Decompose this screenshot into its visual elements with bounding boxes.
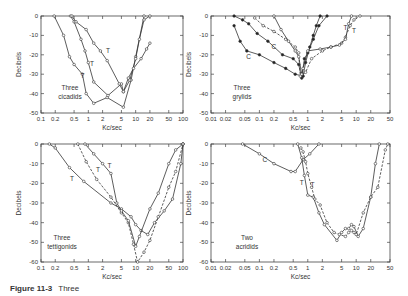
data-point [318, 143, 321, 146]
data-point [253, 17, 256, 20]
data-point [149, 42, 152, 45]
y-tick-label: -20 [29, 180, 38, 186]
x-tick-label: 2 [321, 265, 325, 271]
data-point [182, 143, 185, 146]
data-point [95, 178, 98, 181]
data-point [127, 219, 130, 222]
x-tick-label: 100 [178, 265, 189, 271]
data-point [290, 170, 293, 173]
data-point [318, 24, 321, 27]
y-tick-label: -50 [199, 239, 208, 245]
series-label: T [80, 72, 84, 79]
data-point [350, 229, 353, 232]
x-axis-label: Kc/sec [102, 124, 122, 131]
data-point [319, 15, 322, 18]
y-tick-label: 0 [35, 13, 39, 19]
series-label: C [263, 156, 268, 163]
x-tick-label: 10 [132, 265, 139, 271]
x-axis-label: Kc/sec [291, 273, 311, 280]
data-point [122, 90, 125, 93]
data-point [297, 52, 300, 55]
y-axis-label: Decibels [185, 51, 192, 77]
data-point [294, 46, 297, 49]
x-tick-label: 10 [353, 265, 360, 271]
data-point [149, 208, 152, 211]
panel-label: grylids [233, 93, 253, 101]
x-tick-label: 10 [353, 116, 360, 122]
data-point [127, 77, 130, 80]
data-point [120, 210, 123, 213]
data-point [369, 196, 372, 199]
x-tick-label: 20 [147, 265, 154, 271]
data-point [292, 57, 295, 60]
x-tick-label: 1 [306, 265, 310, 271]
y-tick-label: -10 [29, 161, 38, 167]
y-tick-label: 0 [205, 141, 209, 147]
data-point [134, 57, 137, 60]
data-point [106, 59, 109, 62]
data-point [233, 24, 236, 27]
x-tick-label: 2 [101, 116, 105, 122]
data-point [180, 162, 183, 165]
data-point [333, 231, 336, 234]
data-point [92, 153, 95, 156]
data-point [297, 55, 300, 58]
x-tick-label: 50 [387, 116, 394, 122]
data-point [377, 186, 380, 189]
data-point [149, 15, 152, 18]
x-tick-label: 1 [87, 116, 91, 122]
y-axis-label: Decibels [15, 51, 22, 77]
data-point [304, 160, 307, 163]
data-point [273, 30, 276, 33]
y-tick-label: -50 [29, 110, 38, 116]
data-point [85, 92, 88, 95]
data-point [239, 40, 242, 43]
x-tick-label: 0.1 [255, 265, 264, 271]
data-point [306, 194, 309, 197]
data-point [355, 233, 358, 236]
x-tick-label: 1 [306, 116, 310, 122]
data-point [75, 21, 78, 24]
data-point [294, 73, 297, 76]
y-axis-label: Decibels [15, 190, 22, 216]
data-point [323, 223, 326, 226]
data-point [347, 231, 350, 234]
panel-grylids: 0.010.020.050.10.20.51251020500-10-20-30… [185, 13, 394, 131]
data-point [300, 73, 303, 76]
data-point [273, 61, 276, 64]
data-point [300, 156, 303, 159]
data-point [107, 94, 110, 97]
x-tick-label: 5 [120, 116, 124, 122]
data-point [386, 143, 389, 146]
data-point [378, 143, 381, 146]
data-point [350, 223, 353, 226]
data-point [118, 83, 121, 86]
data-point [302, 67, 305, 70]
x-tick-label: 0.5 [289, 116, 298, 122]
data-point [318, 212, 321, 215]
data-point [134, 245, 137, 248]
data-point [116, 202, 119, 205]
data-point [73, 63, 76, 66]
x-tick-label: 0.5 [70, 265, 79, 271]
y-tick-label: -50 [199, 110, 208, 116]
data-point [146, 233, 149, 236]
data-point [122, 106, 125, 109]
data-point [336, 239, 339, 242]
y-tick-label: -30 [29, 200, 38, 206]
data-point [347, 227, 350, 230]
x-tick-label: 0.1 [37, 116, 46, 122]
data-point [350, 15, 353, 18]
series-line [298, 144, 380, 240]
x-tick-label: 0.5 [289, 265, 298, 271]
panel-label: Three [54, 234, 71, 241]
caption-text: Three [58, 284, 79, 293]
data-point [273, 15, 276, 18]
data-point [130, 215, 133, 218]
data-point [145, 48, 148, 51]
data-point [92, 102, 95, 105]
panel-tettigonids: 0.10.20.51251020501000-10-20-30-40-50-60… [15, 141, 189, 280]
series-line [243, 144, 319, 172]
series-label: T [310, 181, 314, 188]
data-point [101, 162, 104, 165]
